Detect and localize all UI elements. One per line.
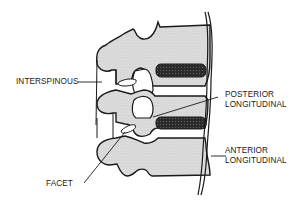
upper-vertebra — [97, 22, 210, 98]
posterior-label-line2: LONGITUDINAL — [225, 100, 287, 110]
posterior-longitudinal-label: POSTERIOR LONGITUDINAL — [225, 90, 287, 110]
anterior-longitudinal-label: ANTERIOR LONGITUDINAL — [225, 146, 287, 166]
lower-disc — [156, 117, 206, 129]
posterior-label-line1: POSTERIOR — [225, 90, 287, 100]
anterior-label-line2: LONGITUDINAL — [225, 156, 287, 166]
upper-disc — [156, 64, 206, 77]
facet-label: FACET — [46, 179, 73, 189]
anterior-label-line1: ANTERIOR — [225, 146, 287, 156]
interspinous-label: INTERSPINOUS — [16, 77, 79, 87]
lower-vertebra — [97, 136, 210, 176]
